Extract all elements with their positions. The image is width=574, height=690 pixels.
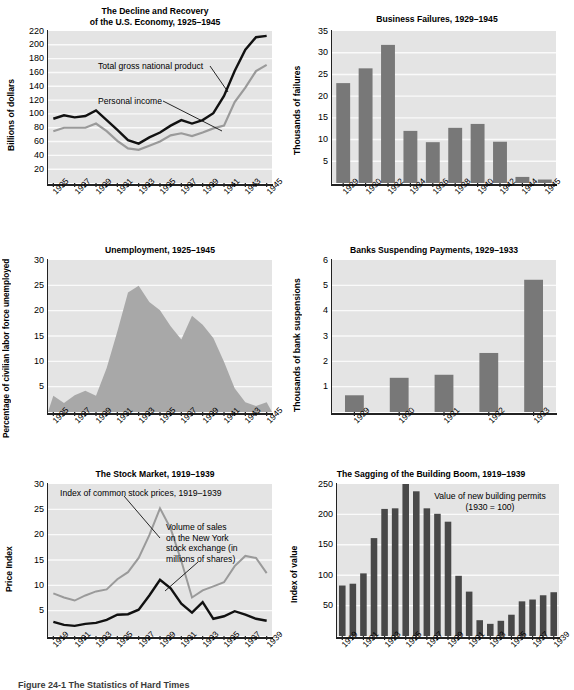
y-tick-label: 15 — [14, 556, 44, 565]
y-tick-label: 40 — [14, 151, 44, 160]
plot-area-gnp: Total gross national product Personal in… — [0, 0, 287, 240]
annotation-stocks-volume-l3: stock exchange (in — [166, 543, 274, 554]
y-tick-label: 150 — [303, 540, 333, 549]
chart-panel-unemployment: Unemployment, 1925–1945 Percentage of ci… — [0, 240, 287, 464]
chart-panel-failures: Business Failures, 1929–1945 Thousands o… — [287, 0, 574, 240]
chart-panel-building: The Sagging of the Building Boom, 1919–1… — [287, 464, 574, 689]
y-tick-label: 3 — [298, 332, 328, 341]
y-tick-label: 15 — [14, 332, 44, 341]
y-tick-label: 160 — [14, 68, 44, 77]
y-tick-label: 6 — [298, 256, 328, 265]
annotation-building-l2: (1930 = 100) — [415, 502, 565, 513]
annotation-building: Value of new building permits (1930 = 10… — [415, 491, 565, 512]
y-tick-label: 20 — [14, 165, 44, 174]
y-tick-label: 5 — [298, 157, 328, 166]
y-tick-label: 10 — [298, 135, 328, 144]
y-tick-label: 5 — [14, 382, 44, 391]
y-tick-label: 1 — [298, 382, 328, 391]
y-tick-label: 15 — [298, 113, 328, 122]
y-axis-line-stocks — [47, 483, 49, 638]
y-axis-line-building — [336, 483, 338, 638]
y-tick-label: 10 — [14, 357, 44, 366]
plot-area-failures: 5101520253035192919301932193419361938194… — [287, 0, 574, 240]
annotation-gnp-personal: Personal income — [98, 96, 162, 107]
y-tick-label: 50 — [303, 601, 333, 610]
chart-panel-stocks: The Stock Market, 1919–1939 Price Index … — [0, 464, 287, 689]
annotation-stocks-volume-l1: Volume of sales — [166, 522, 274, 533]
chart-panel-banks: Banks Suspending Payments, 1929–1933 Tho… — [287, 240, 574, 464]
y-tick-label: 25 — [14, 281, 44, 290]
y-tick-label: 100 — [303, 571, 333, 580]
plot-area-stocks: Index of common stock prices, 1919–1939 … — [0, 464, 287, 689]
plot-area-unemployment: 5101520253019251927192919311933193519371… — [0, 240, 287, 464]
y-tick-label: 10 — [14, 581, 44, 590]
chart-svg-unemployment — [0, 240, 287, 464]
y-tick-label: 35 — [298, 27, 328, 36]
y-tick-label: 4 — [298, 306, 328, 315]
annotation-building-l1: Value of new building permits — [415, 491, 565, 502]
y-tick-label: 5 — [14, 606, 44, 615]
y-tick-label: 20 — [14, 530, 44, 539]
y-tick-label: 30 — [14, 256, 44, 265]
plot-area-building: Value of new building permits (1930 = 10… — [287, 464, 574, 689]
annotation-stocks-volume-l2: on the New York — [166, 533, 274, 544]
y-tick-label: 60 — [14, 137, 44, 146]
annotation-gnp-total: Total gross national product — [98, 61, 203, 72]
chart-panel-gnp: The Decline and Recovery of the U.S. Eco… — [0, 0, 287, 240]
figure-caption: Figure 24-1 The Statistics of Hard Times — [18, 680, 189, 690]
y-tick-label: 140 — [14, 82, 44, 91]
y-tick-label: 30 — [14, 480, 44, 489]
y-axis-line-unemployment — [47, 259, 49, 414]
y-tick-label: 80 — [14, 123, 44, 132]
annotation-stocks-index: Index of common stock prices, 1919–1939 — [60, 488, 221, 499]
plot-area-banks: 12345619291930193119321933 — [287, 240, 574, 464]
y-tick-label: 100 — [14, 109, 44, 118]
y-tick-label: 25 — [14, 505, 44, 514]
y-axis-line-banks — [331, 259, 333, 414]
y-tick-label: 180 — [14, 54, 44, 63]
y-tick-label: 25 — [298, 70, 328, 79]
y-tick-label: 200 — [14, 40, 44, 49]
y-tick-label: 30 — [298, 48, 328, 57]
y-tick-label: 2 — [298, 357, 328, 366]
y-tick-label: 5 — [298, 281, 328, 290]
chart-svg-gnp — [0, 0, 287, 240]
y-tick-label: 20 — [298, 92, 328, 101]
y-tick-label: 250 — [303, 480, 333, 489]
annotation-stocks-volume-l4: millions of shares) — [166, 554, 274, 565]
y-tick-label: 20 — [14, 306, 44, 315]
y-axis-line-gnp — [47, 30, 49, 185]
y-tick-label: 200 — [303, 510, 333, 519]
y-axis-line-failures — [331, 30, 333, 185]
y-tick-label: 120 — [14, 96, 44, 105]
annotation-stocks-volume: Volume of sales on the New York stock ex… — [166, 522, 274, 564]
y-tick-label: 220 — [14, 27, 44, 36]
